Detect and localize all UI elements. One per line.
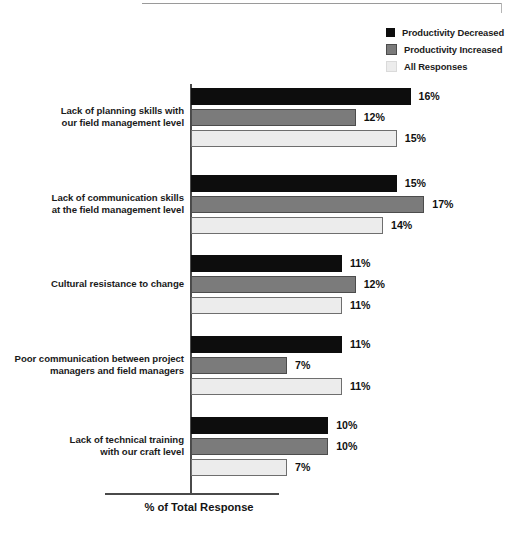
- category-label-line: Lack of planning skills with: [0, 105, 184, 117]
- bar-2-0: [191, 130, 397, 147]
- category-label-line: managers and field managers: [0, 365, 184, 377]
- bar-value-label: 16%: [419, 88, 440, 105]
- bar-1-4: [191, 438, 328, 455]
- category-label-line: Lack of technical training: [0, 434, 184, 446]
- category-label-line: with our craft level: [0, 446, 184, 458]
- bar-2-4: [191, 459, 287, 476]
- bar-1-2: [191, 276, 356, 293]
- bar-1-1: [191, 196, 424, 213]
- category-label-line: at the field management level: [0, 204, 184, 216]
- bar-0-4: [191, 417, 328, 434]
- category-label: Lack of planning skills withour field ma…: [0, 105, 184, 128]
- bar-value-label: 12%: [364, 276, 385, 293]
- bar-0-0: [191, 88, 411, 105]
- bar-value-label: 11%: [350, 255, 371, 272]
- bar-2-2: [191, 297, 342, 314]
- category-label: Poor communication between projectmanage…: [0, 353, 184, 376]
- category-label: Lack of technical trainingwith our craft…: [0, 434, 184, 457]
- category-label-line: Poor communication between project: [0, 353, 184, 365]
- bar-value-label: 10%: [336, 417, 357, 434]
- bar-0-1: [191, 175, 397, 192]
- bar-value-label: 7%: [295, 459, 310, 476]
- x-axis-title: % of Total Response: [105, 501, 293, 513]
- category-label-line: Cultural resistance to change: [0, 278, 184, 290]
- bar-value-label: 11%: [350, 336, 371, 353]
- bar-1-0: [191, 109, 356, 126]
- bar-2-1: [191, 217, 383, 234]
- bar-value-label: 12%: [364, 109, 385, 126]
- category-label-line: Lack of communication skills: [0, 192, 184, 204]
- category-label: Lack of communication skillsat the field…: [0, 192, 184, 215]
- bar-value-label: 14%: [391, 217, 412, 234]
- bar-1-3: [191, 357, 287, 374]
- x-axis-line: [105, 493, 279, 495]
- bar-0-2: [191, 255, 342, 272]
- bar-value-label: 10%: [336, 438, 357, 455]
- bar-2-3: [191, 378, 342, 395]
- bar-value-label: 17%: [432, 196, 453, 213]
- chart-plot-area: % of Total Response Lack of planning ski…: [0, 0, 505, 552]
- bar-value-label: 15%: [405, 130, 426, 147]
- category-label-line: our field management level: [0, 117, 184, 129]
- bar-value-label: 11%: [350, 378, 371, 395]
- bar-value-label: 15%: [405, 175, 426, 192]
- bar-value-label: 7%: [295, 357, 310, 374]
- category-label: Cultural resistance to change: [0, 278, 184, 290]
- bar-value-label: 11%: [350, 297, 371, 314]
- bar-0-3: [191, 336, 342, 353]
